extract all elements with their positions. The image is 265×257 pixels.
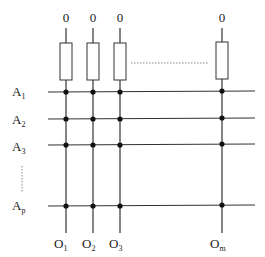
column-label-m: Om [210, 236, 226, 253]
row-lines [48, 91, 255, 206]
row-label-1: A1 [12, 84, 25, 101]
resistor-m [216, 42, 228, 79]
row-label-3: A3 [12, 139, 25, 156]
crossbar-diagram: 0 0 0 0 [0, 0, 265, 257]
top-leads [66, 28, 222, 43]
column-label-2: O2 [82, 236, 95, 253]
resistors [60, 42, 228, 80]
column-label-1: O1 [54, 236, 67, 253]
top-label-2: 0 [90, 10, 97, 25]
top-label-3: 0 [117, 10, 124, 25]
top-label-1: 0 [63, 10, 70, 25]
resistor-3 [114, 43, 126, 80]
row-label-p: Ap [12, 198, 25, 215]
column-label-3: O3 [109, 236, 122, 253]
junction-dots [63, 88, 224, 208]
resistor-2 [87, 43, 99, 80]
column-lines [66, 79, 222, 233]
resistor-1 [60, 43, 72, 80]
row-label-2: A2 [12, 112, 25, 129]
top-label-m: 0 [219, 10, 226, 25]
